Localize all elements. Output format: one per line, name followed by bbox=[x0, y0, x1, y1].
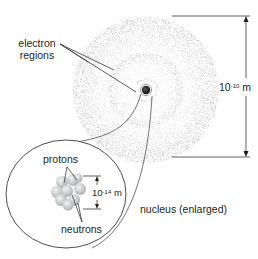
neutrons-label: neutrons bbox=[61, 223, 102, 235]
nucleus-dot bbox=[142, 86, 150, 94]
protons-label: protons bbox=[43, 153, 78, 165]
nucleus-caption: nucleus (enlarged) bbox=[140, 203, 227, 215]
electron-regions-label: electron regions bbox=[14, 37, 60, 61]
nucleus-size-label: 10-14 m bbox=[92, 187, 122, 199]
arrow-up-icon bbox=[244, 16, 249, 22]
atom-size-label: 10-10 m bbox=[219, 81, 251, 93]
arrow-down-icon bbox=[244, 151, 249, 157]
